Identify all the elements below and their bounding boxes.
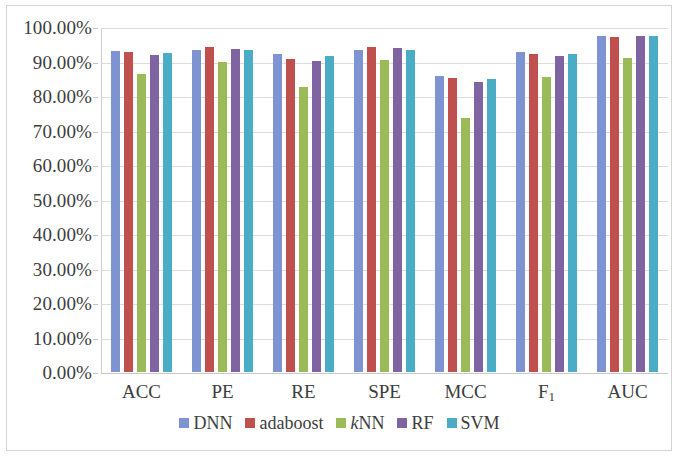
bar-fill bbox=[610, 37, 619, 372]
y-axis-tick-label: 100.00% bbox=[23, 18, 92, 37]
bar-adaboost-auc bbox=[609, 36, 620, 373]
bar-rf-mcc bbox=[473, 81, 484, 373]
bar-groups bbox=[101, 28, 668, 373]
bar-adaboost-f bbox=[528, 53, 539, 374]
legend-swatch-icon bbox=[397, 418, 407, 428]
bar-group-pe bbox=[182, 28, 263, 373]
bar-svm-pe bbox=[243, 49, 254, 373]
bar-svm-re bbox=[324, 55, 335, 373]
bar-svm-acc bbox=[162, 52, 173, 373]
x-axis-tick-label-f: F1 bbox=[506, 379, 587, 411]
bar-fill bbox=[205, 47, 214, 372]
legend-swatch-icon bbox=[245, 418, 255, 428]
y-axis-tick-label: 70.00% bbox=[33, 122, 92, 141]
bar-fill bbox=[568, 54, 577, 373]
legend-item-rf[interactable]: RF bbox=[397, 414, 433, 432]
y-axis-tick-mark bbox=[93, 270, 98, 271]
bar-fill bbox=[124, 52, 133, 372]
x-axis-tick-label-mcc: MCC bbox=[425, 379, 506, 411]
bar-knn-acc bbox=[136, 73, 147, 373]
x-axis-tick-label-acc: ACC bbox=[101, 379, 182, 411]
x-axis-tick-label-pe: PE bbox=[182, 379, 263, 411]
legend-item-adaboost[interactable]: adaboost bbox=[245, 414, 323, 432]
legend-label: DNN bbox=[193, 414, 232, 432]
legend-item-dnn[interactable]: DNN bbox=[179, 414, 232, 432]
bar-fill bbox=[354, 50, 363, 372]
bar-fill bbox=[448, 78, 457, 372]
bar-fill bbox=[393, 48, 402, 372]
y-axis-tick-mark bbox=[93, 132, 98, 133]
legend-swatch-icon bbox=[336, 418, 346, 428]
bar-knn-auc bbox=[622, 57, 633, 373]
bar-fill bbox=[542, 77, 551, 372]
bar-fill bbox=[636, 36, 645, 372]
y-axis-tick-label: 50.00% bbox=[33, 191, 92, 210]
bar-fill bbox=[218, 62, 227, 372]
bar-group-acc bbox=[101, 28, 182, 373]
bar-svm-f bbox=[567, 53, 578, 374]
x-axis-tick-label-re: RE bbox=[263, 379, 344, 411]
bar-fill bbox=[299, 87, 308, 372]
bar-group-mcc bbox=[425, 28, 506, 373]
bar-rf-spe bbox=[392, 47, 403, 373]
bar-fill bbox=[623, 58, 632, 372]
y-axis-labels: 100.00%90.00%80.00%70.00%60.00%50.00%40.… bbox=[12, 0, 98, 458]
y-axis-tick-mark bbox=[93, 339, 98, 340]
gridline bbox=[101, 373, 668, 374]
y-axis-tick-mark bbox=[93, 63, 98, 64]
bar-fill bbox=[367, 47, 376, 372]
y-axis-tick-mark bbox=[93, 97, 98, 98]
bar-dnn-spe bbox=[353, 49, 364, 373]
bar-chart-figure: 100.00%90.00%80.00%70.00%60.00%50.00%40.… bbox=[0, 0, 679, 458]
y-axis-tick-mark bbox=[93, 373, 98, 374]
bar-fill bbox=[555, 56, 564, 372]
legend-label: adaboost bbox=[259, 414, 323, 432]
legend-label: RF bbox=[411, 414, 433, 432]
bar-rf-auc bbox=[635, 35, 646, 373]
bar-rf-pe bbox=[230, 48, 241, 373]
y-axis-tick-mark bbox=[93, 235, 98, 236]
x-axis-tick-label-spe: SPE bbox=[344, 379, 425, 411]
bar-knn-re bbox=[298, 86, 309, 373]
x-axis-labels: ACCPERESPEMCCF1AUC bbox=[101, 379, 668, 411]
plot-area bbox=[101, 28, 668, 373]
legend-label: SVM bbox=[461, 414, 500, 432]
y-axis-tick-label: 90.00% bbox=[33, 53, 92, 72]
bar-svm-mcc bbox=[486, 78, 497, 373]
bar-fill bbox=[649, 36, 658, 372]
y-axis-tick-label: 60.00% bbox=[33, 156, 92, 175]
bar-fill bbox=[474, 82, 483, 372]
legend-item-svm[interactable]: SVM bbox=[447, 414, 500, 432]
bar-fill bbox=[529, 54, 538, 373]
bar-fill bbox=[273, 54, 282, 372]
bar-knn-spe bbox=[379, 59, 390, 373]
bar-adaboost-spe bbox=[366, 46, 377, 373]
bar-dnn-acc bbox=[110, 50, 121, 373]
y-axis-tick-label: 10.00% bbox=[33, 329, 92, 348]
bar-rf-re bbox=[311, 60, 322, 373]
bar-fill bbox=[192, 50, 201, 372]
bar-dnn-re bbox=[272, 53, 283, 373]
bar-fill bbox=[406, 50, 415, 372]
legend-swatch-icon bbox=[447, 418, 457, 428]
bar-fill bbox=[163, 53, 172, 372]
y-axis-tick-mark bbox=[93, 28, 98, 29]
bar-knn-mcc bbox=[460, 117, 471, 373]
bar-group-f bbox=[506, 28, 587, 373]
bar-rf-acc bbox=[149, 54, 160, 373]
y-axis-tick-label: 30.00% bbox=[33, 260, 92, 279]
bar-adaboost-re bbox=[285, 58, 296, 373]
y-axis-tick-label: 0.00% bbox=[42, 363, 92, 382]
bar-fill bbox=[325, 56, 334, 372]
bar-adaboost-acc bbox=[123, 51, 134, 373]
bar-fill bbox=[516, 52, 525, 372]
bar-group-spe bbox=[344, 28, 425, 373]
x-axis-tick-label-auc: AUC bbox=[587, 379, 668, 411]
y-axis-tick-mark bbox=[93, 201, 98, 202]
bar-fill bbox=[312, 61, 321, 372]
y-axis-tick-mark bbox=[93, 304, 98, 305]
bar-knn-pe bbox=[217, 61, 228, 373]
legend-item-knn[interactable]: kNN bbox=[336, 414, 384, 432]
bar-svm-auc bbox=[648, 35, 659, 373]
bar-fill bbox=[380, 60, 389, 372]
